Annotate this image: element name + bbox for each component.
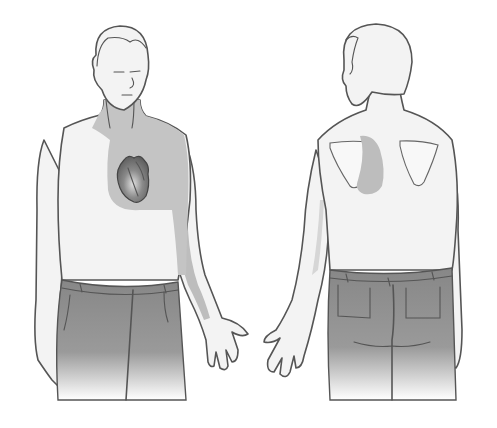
illustration [0, 0, 497, 428]
back-left-arm [264, 150, 330, 377]
front-head [92, 26, 148, 110]
back-torso [318, 92, 457, 270]
front-trousers [57, 280, 186, 400]
back-view [264, 24, 462, 400]
front-view [35, 26, 248, 400]
